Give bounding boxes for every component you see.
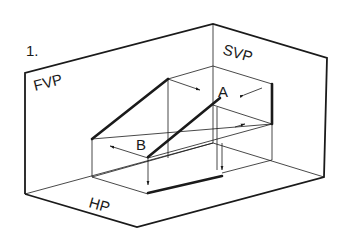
projection-arrows xyxy=(110,79,262,185)
point-a-label: A xyxy=(218,83,228,100)
projection-diagram: 1. FVP SVP HP A B xyxy=(0,0,341,232)
object-lines xyxy=(92,79,272,193)
plane-frame xyxy=(25,24,327,227)
svp-label: SVP xyxy=(221,41,255,66)
figure-number: 1. xyxy=(26,42,39,59)
fvp-label: FVP xyxy=(32,70,64,94)
point-b-label: B xyxy=(136,136,146,153)
hp-label: HP xyxy=(87,194,112,216)
